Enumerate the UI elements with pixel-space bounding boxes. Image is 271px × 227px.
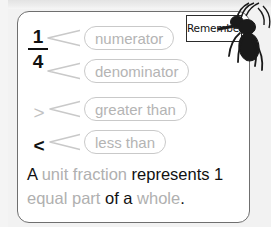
sentence-highlight-equal-part: equal part xyxy=(27,189,100,207)
sentence-highlight-unit-fraction: unit fraction xyxy=(42,165,127,183)
callout-tail-denominator xyxy=(46,59,88,83)
sentence-part-1: A xyxy=(27,165,42,183)
scan-left-band xyxy=(0,0,8,227)
sentence-part-3: of a xyxy=(100,189,137,207)
fraction-numerator: 1 xyxy=(27,26,49,47)
sentence-part-2: represents 1 xyxy=(127,165,223,183)
fraction-bar xyxy=(28,48,48,50)
sentence-part-4: . xyxy=(180,189,185,207)
sentence-highlight-whole: whole xyxy=(137,189,180,207)
callout-tail-numerator xyxy=(46,26,88,50)
callout-denominator: denominator xyxy=(84,59,189,83)
callout-numerator: numerator xyxy=(84,26,174,50)
fraction-denominator: 4 xyxy=(27,51,49,72)
vocabulary-card: 1 4 > < xyxy=(17,11,250,223)
callout-tail-greater xyxy=(48,97,88,121)
less-than-symbol: < xyxy=(27,136,51,155)
definition-sentence: A unit fraction represents 1 equal part … xyxy=(27,162,242,210)
callout-tail-less xyxy=(48,130,88,154)
ant-icon xyxy=(218,0,271,88)
callout-greater-than: greater than xyxy=(84,97,187,121)
fraction-one-fourth: 1 4 xyxy=(27,26,49,72)
greater-than-symbol: > xyxy=(27,103,51,122)
page-canvas: 1 4 > < xyxy=(0,0,271,227)
callout-less-than: less than xyxy=(84,130,166,154)
